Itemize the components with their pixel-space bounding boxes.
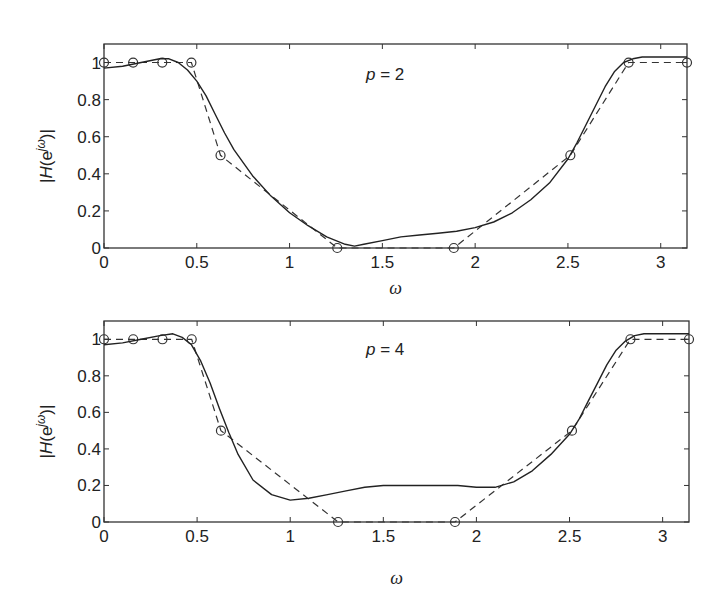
y-tick-label: 0.8 xyxy=(77,367,101,386)
x-tick-label: 1 xyxy=(285,527,294,546)
x-tick-label: 0.5 xyxy=(185,253,209,272)
x-tick-label: 1 xyxy=(285,253,294,272)
x-axis-label: ω xyxy=(390,568,403,588)
y-tick-label: 0.8 xyxy=(77,91,101,110)
x-tick-label: 3 xyxy=(656,253,665,272)
plot-p4: 00.511.522.5300.20.40.60.81p = 4ω|H(ejω)… xyxy=(34,321,694,588)
x-tick-label: 0.5 xyxy=(185,527,209,546)
desired-dashed-line xyxy=(104,339,689,522)
plot-p2: 00.511.522.5300.20.40.60.81p = 2ω|H(ejω)… xyxy=(34,44,692,298)
y-tick-label: 0.6 xyxy=(77,403,101,422)
chart-figure: 00.511.522.5300.20.40.60.81p = 2ω|H(ejω)… xyxy=(0,0,724,593)
x-tick-label: 2.5 xyxy=(556,253,580,272)
y-tick-label: 0.4 xyxy=(77,440,101,459)
y-tick-label: 0.4 xyxy=(77,165,101,184)
y-tick-label: 0 xyxy=(92,239,101,258)
x-tick-label: 1.5 xyxy=(371,527,395,546)
x-axis-label: ω xyxy=(389,278,402,298)
x-tick-label: 2 xyxy=(472,527,481,546)
y-tick-label: 0.2 xyxy=(77,202,101,221)
x-tick-label: 2.5 xyxy=(558,527,582,546)
desired-dashed-line xyxy=(104,63,687,249)
y-axis-label: |H(ejω)| xyxy=(34,129,56,183)
p-annotation: p = 4 xyxy=(365,340,404,359)
y-tick-label: 0.6 xyxy=(77,128,101,147)
x-tick-label: 1.5 xyxy=(371,253,395,272)
x-tick-label: 2 xyxy=(470,253,479,272)
response-curve xyxy=(104,57,687,246)
y-tick-label: 0.2 xyxy=(77,476,101,495)
x-tick-label: 3 xyxy=(658,527,667,546)
p-annotation: p = 2 xyxy=(365,65,404,84)
y-axis-label: |H(ejω)| xyxy=(34,405,56,459)
y-tick-label: 0 xyxy=(92,513,101,532)
